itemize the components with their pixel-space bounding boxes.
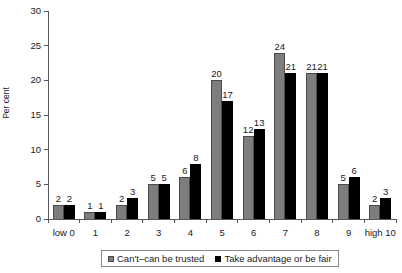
y-tick-label: 25 [30, 39, 41, 52]
bar: 21 [317, 73, 328, 219]
bar-value-label: 1 [98, 200, 103, 212]
x-category-label: 6 [238, 226, 270, 239]
bar: 13 [254, 129, 265, 219]
x-category-label: 4 [175, 226, 207, 239]
x-tick-mark [237, 219, 238, 223]
x-tick-mark [332, 219, 333, 223]
bar: 6 [349, 177, 360, 219]
x-category-label: 3 [143, 226, 175, 239]
legend-label-series-0: Can't–can be trusted [117, 253, 204, 265]
bar: 21 [285, 73, 296, 219]
bar-value-label: 2 [67, 193, 72, 205]
black-square-swatch-icon [215, 256, 221, 262]
bar-pair: 23 [116, 198, 138, 219]
y-tick-label: 15 [30, 108, 41, 121]
bar-group: 23 [111, 11, 143, 219]
bar: 3 [127, 198, 138, 219]
x-tick-mark [111, 219, 112, 223]
bar-pair: 2121 [306, 73, 328, 219]
x-tick-mark [269, 219, 270, 223]
bar-value-label: 2 [56, 193, 61, 205]
bar: 3 [380, 198, 391, 219]
x-category-label: 1 [80, 226, 112, 239]
x-category-label: 5 [206, 226, 238, 239]
x-tick-mark [79, 219, 80, 223]
bar-value-label: 17 [222, 89, 233, 101]
bar: 17 [222, 101, 233, 219]
legend-label-series-1: Take advantage or be fair [224, 253, 331, 265]
bar-group: 1213 [238, 11, 270, 219]
bar-pair: 1213 [243, 129, 265, 219]
bar-value-label: 1 [87, 200, 92, 212]
bar: 12 [243, 136, 254, 219]
x-tick-mark [174, 219, 175, 223]
y-tick-label: 20 [30, 73, 41, 86]
x-category-label: 8 [301, 226, 333, 239]
bar-pair: 56 [338, 177, 360, 219]
bar-value-label: 21 [286, 61, 297, 73]
bar-pair: 68 [179, 164, 201, 219]
legend-item-series-1: Take advantage or be fair [215, 253, 331, 265]
x-tick-mark [142, 219, 143, 223]
bar: 5 [148, 184, 159, 219]
bar: 5 [338, 184, 349, 219]
bar-group: 11 [80, 11, 112, 219]
bar-value-label: 3 [383, 186, 388, 198]
x-tick-mark [301, 219, 302, 223]
x-axis-line [48, 219, 396, 220]
x-category-label: high 10 [364, 226, 396, 239]
bar-pair: 2421 [274, 53, 296, 219]
x-category-label: 7 [269, 226, 301, 239]
x-tick-mark [48, 219, 49, 223]
bar-group: 55 [143, 11, 175, 219]
bar: 2 [64, 205, 75, 219]
bar-value-label: 12 [243, 124, 254, 136]
bar-pair: 55 [148, 184, 170, 219]
y-tick-label: 30 [30, 4, 41, 17]
bar: 8 [190, 164, 201, 219]
y-tick-label: 0 [36, 212, 41, 225]
bar: 5 [159, 184, 170, 219]
bar-value-label: 2 [372, 193, 377, 205]
x-axis-category-labels: low 0123456789high 10 [48, 226, 396, 239]
x-tick-mark [396, 219, 397, 223]
bar-pair: 11 [84, 212, 106, 219]
bar-value-label: 24 [275, 41, 286, 53]
bar-value-label: 6 [182, 165, 187, 177]
bar-group: 23 [364, 11, 396, 219]
x-tick-mark [206, 219, 207, 223]
bar-group: 2121 [301, 11, 333, 219]
bar-value-label: 6 [351, 165, 356, 177]
y-axis-title: Per cent [1, 63, 11, 143]
bar: 24 [274, 53, 285, 219]
bar-value-label: 8 [193, 152, 198, 164]
legend-item-series-0: Can't–can be trusted [108, 253, 204, 265]
bar-group: 2421 [269, 11, 301, 219]
bar-value-label: 20 [211, 68, 222, 80]
bar: 20 [211, 80, 222, 219]
x-category-label: 9 [333, 226, 365, 239]
y-tick-label: 5 [36, 177, 41, 190]
bar-value-label: 13 [254, 117, 265, 129]
bar-groups: 221123556820171213242121215623 [48, 11, 396, 219]
bar: 1 [84, 212, 95, 219]
bar-value-label: 21 [306, 61, 317, 73]
bar: 2 [369, 205, 380, 219]
bar-group: 68 [175, 11, 207, 219]
chart-legend: Can't–can be trusted Take advantage or b… [101, 250, 339, 267]
x-category-label: low 0 [48, 226, 80, 239]
bar-chart: Per cent 051015202530 221123556820171213… [0, 0, 402, 273]
bar-value-label: 21 [317, 61, 328, 73]
gray-square-swatch-icon [108, 256, 114, 262]
bar: 21 [306, 73, 317, 219]
bar: 2 [53, 205, 64, 219]
bar-value-label: 3 [130, 186, 135, 198]
bar-group: 2017 [206, 11, 238, 219]
bar-group: 56 [333, 11, 365, 219]
bar-pair: 2017 [211, 80, 233, 219]
bar: 6 [179, 177, 190, 219]
bar-value-label: 5 [162, 172, 167, 184]
x-tick-mark [364, 219, 365, 223]
bar-pair: 23 [369, 198, 391, 219]
bar: 1 [95, 212, 106, 219]
